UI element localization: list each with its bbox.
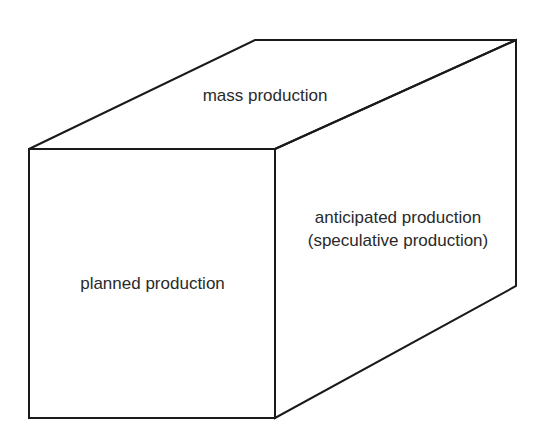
- top-face-label: mass production: [190, 86, 340, 106]
- side-face-label-line2: (speculative production): [283, 231, 513, 251]
- front-face-label: planned production: [50, 274, 255, 294]
- production-box-diagram: mass production planned production antic…: [0, 0, 547, 441]
- side-face-label-line1: anticipated production: [283, 208, 513, 228]
